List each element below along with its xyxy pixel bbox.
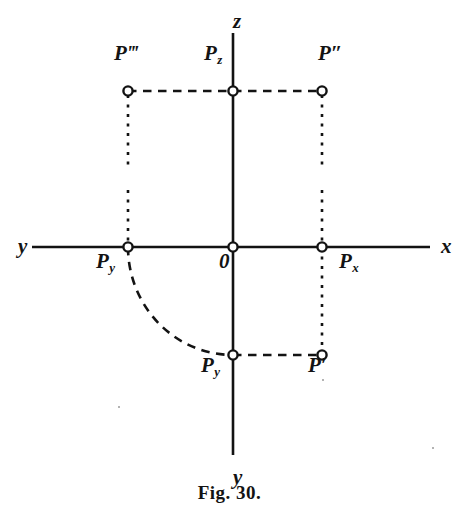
paper-speck-2 bbox=[432, 447, 434, 449]
point-label-p-prime: P′ bbox=[308, 355, 327, 376]
rotation-arc-group bbox=[128, 247, 233, 355]
point-marker-p-y-axis bbox=[123, 242, 132, 251]
point-label-p-double-prime: P″ bbox=[318, 43, 343, 64]
point-label-letter: P bbox=[204, 41, 217, 65]
point-label-subscript: x bbox=[352, 260, 359, 275]
point-label-origin: 0 bbox=[219, 251, 230, 272]
point-label-letter: P bbox=[318, 41, 331, 65]
point-label-p-y-lower: Py bbox=[201, 355, 220, 378]
z-axis-label: z bbox=[233, 11, 241, 32]
point-label-subscript: y bbox=[109, 260, 115, 275]
point-label-subscript: y bbox=[214, 364, 220, 379]
point-label-prime: ′ bbox=[321, 353, 327, 377]
point-marker-p-triple-prime bbox=[123, 86, 132, 95]
point-label-p-z: Pz bbox=[204, 43, 222, 66]
x-axis-right-label: x bbox=[441, 236, 452, 257]
point-marker-p-z bbox=[228, 86, 237, 95]
paper-speck-0 bbox=[118, 406, 120, 408]
point-label-p-triple-prime: P‴ bbox=[114, 43, 139, 64]
point-label-letter: P bbox=[201, 353, 214, 377]
point-label-p-x-axis: Px bbox=[339, 251, 359, 274]
rotation-arc bbox=[128, 247, 233, 355]
point-label-subscript: z bbox=[217, 52, 222, 67]
point-marker-p-x-axis bbox=[317, 242, 326, 251]
point-label-letter: P bbox=[96, 249, 109, 273]
point-label-letter: P bbox=[339, 249, 352, 273]
y-axis-left-label: y bbox=[18, 236, 27, 257]
figure-30-container: zyxy 0P‴PzP″PyPxPyP′ Fig. 30. bbox=[0, 0, 459, 514]
point-label-letter: 0 bbox=[219, 249, 230, 273]
paper-speck-1 bbox=[322, 379, 324, 381]
point-label-letter: P bbox=[308, 353, 321, 377]
point-marker-p-double-prime bbox=[317, 86, 326, 95]
point-label-prime: ″ bbox=[331, 41, 343, 65]
point-label-p-y-axis: Py bbox=[96, 251, 115, 274]
construction-lines-group bbox=[128, 91, 322, 355]
point-marker-p-y-lower bbox=[228, 350, 237, 359]
figure-caption: Fig. 30. bbox=[0, 482, 459, 504]
point-label-prime: ‴ bbox=[127, 41, 139, 65]
point-label-letter: P bbox=[114, 41, 127, 65]
